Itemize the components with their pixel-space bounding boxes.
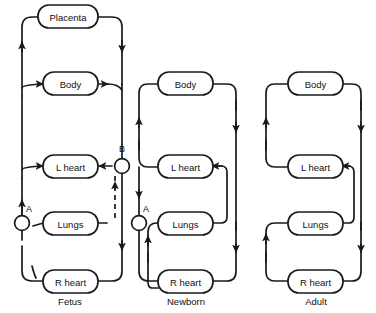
fetus-node-l-heart: L heart <box>43 155 98 178</box>
fetus-branch-to-lheart <box>22 166 43 170</box>
adult-panel-label: Adult <box>305 296 327 307</box>
adult-node-lungs: Lungs <box>288 212 343 235</box>
fetus-node-lungs-label: Lungs <box>58 219 84 230</box>
newborn-rheart-to-lungs-inner <box>148 252 158 288</box>
newborn-node-lungs-label: Lungs <box>173 219 199 230</box>
newborn-lheart-out-left <box>139 140 158 167</box>
diagram-canvas: Placenta Body L heart Lungs R heart A <box>0 0 376 313</box>
panel-newborn: Body L heart Lungs R heart A Newborn <box>132 72 236 307</box>
fetus-marker-b: B <box>115 144 130 173</box>
adult-right-rail-to-rheart <box>343 244 361 281</box>
newborn-panel-label: Newborn <box>167 296 205 307</box>
fetus-left-rail-top <box>22 17 38 52</box>
fetus-node-body-label: Body <box>60 79 82 90</box>
fetus-node-l-heart-label: L heart <box>56 162 86 173</box>
fetus-right-rail-from-placenta <box>98 17 122 52</box>
adult-node-r-heart-label: R heart <box>300 277 332 288</box>
adult-node-r-heart: R heart <box>288 270 343 293</box>
fetus-panel-label: Fetus <box>58 296 82 307</box>
newborn-node-l-heart: L heart <box>158 155 213 178</box>
newborn-right-rail-to-rheart <box>213 244 236 281</box>
adult-lungs-to-lheart <box>343 166 354 223</box>
adult-body-out-right <box>343 84 361 110</box>
newborn-node-lungs: Lungs <box>158 212 213 235</box>
fetus-marker-b-label: B <box>119 144 125 154</box>
fetus-body-join-right-rail <box>108 84 122 90</box>
fetus-node-body: Body <box>43 72 98 95</box>
fetus-node-r-heart: R heart <box>43 270 98 293</box>
fetus-marker-a: A <box>15 204 32 230</box>
fetus-node-placenta: Placenta <box>38 5 98 28</box>
fetus-branch-to-body <box>22 84 43 88</box>
panel-fetus: Placenta Body L heart Lungs R heart A <box>15 5 130 307</box>
fetus-rheart-left-stub <box>32 266 36 278</box>
adult-left-rail-to-body <box>266 84 288 128</box>
adult-lheart-out-left <box>266 140 288 167</box>
adult-node-body: Body <box>288 72 343 95</box>
adult-rheart-out-left <box>266 252 288 281</box>
adult-node-l-heart: L heart <box>288 155 343 178</box>
newborn-marker-a-label: A <box>143 204 149 214</box>
adult-node-body-label: Body <box>305 79 327 90</box>
adult-node-lungs-label: Lungs <box>303 219 329 230</box>
fetus-node-lungs: Lungs <box>43 212 98 235</box>
newborn-body-out-right <box>213 84 236 110</box>
circulation-diagram-figure: Placenta Body L heart Lungs R heart A <box>0 0 376 313</box>
newborn-node-r-heart-label: R heart <box>170 277 202 288</box>
newborn-node-body-label: Body <box>175 79 197 90</box>
fetus-marker-a-label: A <box>26 204 32 214</box>
newborn-lungs-to-lheart <box>213 166 227 223</box>
newborn-node-l-heart-label: L heart <box>171 162 201 173</box>
newborn-node-r-heart: R heart <box>158 270 213 293</box>
fetus-node-placenta-label: Placenta <box>50 12 88 23</box>
panel-adult: Body L heart Lungs R heart Adult <box>266 72 361 307</box>
fetus-node-r-heart-label: R heart <box>55 277 87 288</box>
newborn-node-body: Body <box>158 72 213 95</box>
newborn-marker-a: A <box>132 204 149 230</box>
fetus-right-rail-to-rheart <box>98 240 122 281</box>
adult-node-l-heart-label: L heart <box>301 162 331 173</box>
adult-left-lower-to-lungs <box>266 223 288 244</box>
newborn-left-rail-to-body <box>139 84 158 128</box>
